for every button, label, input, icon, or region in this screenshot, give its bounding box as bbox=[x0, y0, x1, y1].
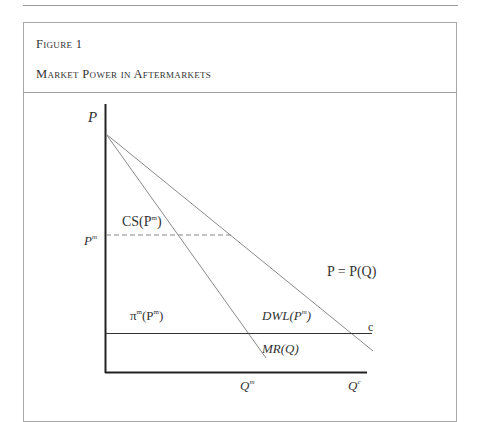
consumer-surplus-label: CS(Pm) bbox=[122, 214, 162, 230]
marginal-revenue-curve bbox=[106, 134, 266, 358]
qc-label: Qc bbox=[348, 378, 361, 393]
p-axis-label: P bbox=[87, 109, 97, 125]
qm-label: Qm bbox=[240, 378, 254, 393]
profit-label: πm(Pm) bbox=[130, 308, 163, 323]
deadweight-loss-label: DWL(Pm) bbox=[261, 308, 311, 323]
demand-label: P = P(Q) bbox=[327, 264, 377, 280]
pm-label: Pm bbox=[83, 233, 97, 248]
cost-label: c bbox=[368, 320, 373, 334]
marginal-revenue-label: MR(Q) bbox=[261, 341, 299, 356]
